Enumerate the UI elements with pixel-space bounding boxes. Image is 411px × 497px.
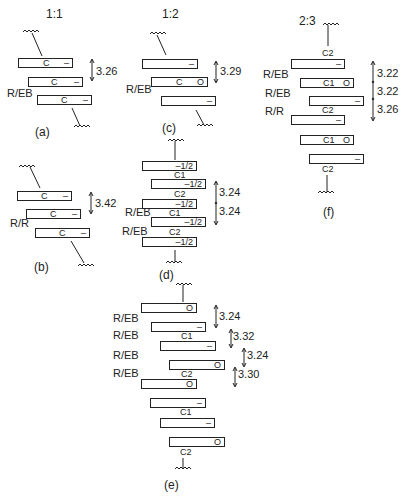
- site-label: C2: [169, 228, 181, 237]
- molecule-charge-label: O: [197, 77, 204, 87]
- spacing-label: 3.24: [247, 350, 268, 361]
- molecule-box: –1/2: [142, 161, 197, 171]
- molecule-box: –: [150, 398, 206, 408]
- molecule-charge-label: –1/2: [175, 237, 193, 247]
- molecule-charge-label: O: [343, 135, 350, 145]
- molecule-charge-label: –1/2: [184, 179, 202, 189]
- stacking-diagram-figure: 1:1 C – C – C – R/EB 3.26 (a) 1:2 – C O …: [0, 0, 411, 497]
- molecule-center-label: C: [176, 77, 183, 87]
- spacing-label: 3.22: [377, 68, 398, 79]
- molecule-charge-label: –: [355, 96, 360, 106]
- molecule-box: C –: [28, 77, 83, 87]
- molecule-charge-label: –: [189, 59, 194, 69]
- stacking-label: R/EB: [113, 313, 139, 324]
- molecule-box: –1/2: [151, 179, 206, 189]
- spacing-label: 3.24: [219, 206, 240, 217]
- stacking-label: R/EB: [125, 207, 151, 218]
- molecule-center-label: C: [43, 58, 50, 68]
- molecule-box: O: [141, 379, 197, 389]
- molecule-box: –: [161, 96, 216, 106]
- stacking-label: R/EB: [7, 88, 33, 99]
- molecule-box: –: [291, 59, 345, 69]
- molecule-box: C –: [37, 95, 92, 105]
- molecule-center-label: C: [41, 191, 48, 201]
- molecule-box: –1/2: [142, 237, 197, 247]
- panel-caption: (c): [162, 122, 176, 134]
- molecule-charge-label: –: [336, 59, 341, 69]
- spacing-label: 3.22: [377, 86, 398, 97]
- site-label: C1: [323, 78, 335, 88]
- spacing-label: 3.29: [220, 66, 241, 77]
- molecule-charge-label: O: [186, 379, 193, 389]
- stacking-label: R/EB: [126, 84, 152, 95]
- molecule-charge-label: O: [186, 303, 193, 313]
- ratio-label: 1:1: [46, 8, 63, 20]
- molecule-charge-label: –: [83, 95, 88, 105]
- molecule-charge-label: –: [197, 398, 202, 408]
- site-label: C2: [322, 106, 334, 115]
- molecule-box: –: [291, 115, 345, 125]
- molecule-charge-label: –: [197, 322, 202, 332]
- spring-icon: [78, 264, 94, 266]
- molecule-center-label: C: [59, 228, 66, 238]
- molecule-box: O: [141, 303, 197, 313]
- molecule-charge-label: –: [64, 58, 69, 68]
- molecule-box: –: [142, 59, 198, 69]
- stacking-label: R/EB: [263, 69, 289, 80]
- spacing-label: 3.30: [238, 369, 259, 380]
- molecule-box: –: [309, 154, 364, 164]
- molecule-box: C –: [17, 191, 72, 201]
- panel-caption: (e): [164, 479, 179, 491]
- molecule-box: C1 O: [300, 78, 354, 88]
- molecule-box: O: [169, 437, 225, 447]
- molecule-charge-label: O: [214, 437, 221, 447]
- spacing-label: 3.26: [377, 104, 398, 115]
- molecule-charge-label: –: [207, 341, 212, 351]
- molecule-center-label: C: [51, 77, 58, 87]
- molecule-box: C1 O: [300, 135, 354, 145]
- spring-icon: [168, 139, 184, 141]
- site-label: C2: [181, 370, 193, 379]
- molecule-center-label: C: [50, 209, 57, 219]
- ratio-label: 2:3: [299, 15, 316, 27]
- panel-caption: (d): [159, 269, 174, 281]
- stacking-label: R/EB: [113, 368, 139, 379]
- site-label: C2: [180, 448, 192, 457]
- molecule-center-label: C: [61, 95, 68, 105]
- spacing-label: 3.24: [219, 311, 240, 322]
- stacking-label: R/EB: [113, 350, 139, 361]
- site-label: C2: [322, 165, 334, 174]
- molecule-box: C –: [35, 228, 90, 238]
- molecule-box: –: [160, 341, 216, 351]
- molecule-charge-label: –: [72, 209, 77, 219]
- spring-icon: [176, 283, 192, 285]
- molecule-charge-label: –: [74, 77, 79, 87]
- spacing-label: 3.32: [233, 331, 254, 342]
- stacking-label: R/R: [265, 106, 284, 117]
- spring-icon: [23, 30, 39, 32]
- molecule-charge-label: O: [343, 78, 350, 88]
- spring-icon: [323, 23, 339, 25]
- molecule-charge-label: –: [81, 228, 86, 238]
- stacking-label: R/EB: [122, 226, 148, 237]
- site-label: C1: [180, 408, 192, 417]
- molecule-charge-label: –: [336, 115, 341, 125]
- stacking-label: R/EB: [113, 330, 139, 341]
- spacing-label: 3.42: [95, 198, 116, 209]
- molecule-box: –: [309, 96, 364, 106]
- stacking-label: R/R: [10, 218, 29, 229]
- molecule-charge-label: –1/2: [184, 217, 202, 227]
- molecule-box: C –: [26, 209, 81, 219]
- molecule-charge-label: –: [355, 154, 360, 164]
- stacking-label: R/EB: [265, 88, 291, 99]
- spacing-label: 3.26: [96, 66, 117, 77]
- spring-icon: [19, 165, 35, 167]
- site-label: C1: [323, 135, 335, 145]
- molecule-charge-label: –: [206, 418, 211, 428]
- site-label: C1: [181, 332, 193, 341]
- molecule-box: –: [151, 322, 206, 332]
- molecule-box: O: [169, 360, 225, 370]
- spring-icon: [166, 261, 182, 263]
- molecule-box: –1/2: [151, 217, 206, 227]
- spring-icon: [318, 191, 334, 193]
